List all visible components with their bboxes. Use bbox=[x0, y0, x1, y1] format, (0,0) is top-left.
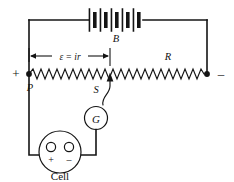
cell-body-circle bbox=[39, 131, 81, 173]
potentiometer-wire bbox=[29, 69, 207, 79]
junction-dot-minus bbox=[204, 71, 210, 77]
dimension-arrowhead-left bbox=[30, 53, 36, 58]
cell-label: Cell bbox=[51, 170, 69, 182]
emf-expression-label: ε = ir bbox=[59, 52, 81, 62]
circuit-svg: B ε = ir R + P bbox=[0, 0, 234, 182]
emf-dimension-annotation: ε = ir bbox=[29, 48, 110, 66]
slider-lead-wire bbox=[103, 79, 110, 105]
minus-terminal-label: – bbox=[217, 66, 225, 81]
cell-negative-post bbox=[64, 142, 73, 151]
top-circuit-loop bbox=[29, 20, 207, 74]
battery-symbol bbox=[89, 9, 140, 31]
galvanometer-label: G bbox=[92, 113, 100, 125]
plus-terminal-label: + bbox=[12, 66, 19, 81]
resistor-zigzag bbox=[29, 69, 207, 79]
circuit-diagram: B ε = ir R + P bbox=[0, 0, 234, 182]
battery-label: B bbox=[113, 33, 120, 44]
dimension-arrowhead-right bbox=[103, 53, 109, 58]
slider-label: S bbox=[93, 84, 99, 95]
cell-minus-label: – bbox=[66, 154, 73, 165]
left-terminal-group: + P bbox=[12, 66, 33, 93]
resistor-label: R bbox=[164, 51, 172, 62]
sliding-contact-group[interactable]: S bbox=[93, 73, 113, 106]
cell-group: + – Cell bbox=[39, 131, 81, 182]
cell-positive-post bbox=[46, 142, 55, 151]
cell-plus-label: + bbox=[48, 154, 54, 165]
galvanometer-group: G bbox=[78, 107, 108, 156]
